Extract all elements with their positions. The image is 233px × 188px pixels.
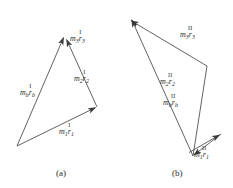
caption-panel-b: (b) [172, 168, 183, 178]
vector-diagram-figure: mI3r3 mI2r2 mIbrb mI1r1 mII3r3 mII2r2 mI… [0, 0, 233, 188]
vector-b-connector [193, 66, 207, 156]
panel-b-vectors [131, 20, 221, 156]
label-b-m2r2: mII2r2 [160, 73, 175, 88]
label-b-m1r1: mII1r1 [194, 146, 209, 161]
vector-a-m1r1 [17, 108, 96, 146]
label-a-m3r3: mI3r3 [70, 30, 85, 45]
label-a-mbrb: mIbrb [20, 84, 35, 99]
label-a-m1r1: mI1r1 [59, 123, 74, 138]
label-b-mbrb: mIIbrb [163, 94, 178, 109]
label-a-m2r2: mI2r2 [74, 70, 89, 85]
caption-panel-a: (a) [56, 168, 66, 178]
label-b-m3r3: mII3r3 [180, 26, 195, 41]
